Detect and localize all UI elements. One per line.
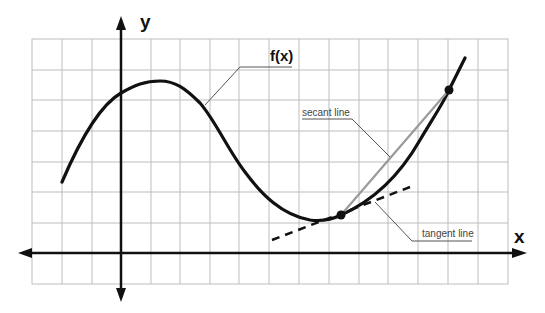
function-label: f(x) <box>270 47 293 64</box>
function-label-callout: f(x) <box>205 47 293 105</box>
secant-label: secant line <box>302 107 350 118</box>
tangent-label: tangent line <box>422 228 474 239</box>
function-curve <box>62 58 465 221</box>
x-axis-label: x <box>514 226 525 247</box>
calculus-diagram: y x f(x) secant line tangent line <box>0 0 545 313</box>
secant-line <box>341 90 449 215</box>
x-axis-right-arrow-icon <box>512 248 527 258</box>
secant-label-callout: secant line <box>302 107 390 157</box>
tangent-point <box>337 211 346 220</box>
y-axis-up-arrow-icon <box>116 16 126 30</box>
y-axis-label: y <box>140 11 151 32</box>
x-axis-left-arrow-icon <box>18 248 32 258</box>
grid <box>32 39 508 284</box>
y-axis-down-arrow-icon <box>116 288 126 302</box>
tangent-label-callout: tangent line <box>375 202 474 241</box>
secant-point <box>445 86 454 95</box>
